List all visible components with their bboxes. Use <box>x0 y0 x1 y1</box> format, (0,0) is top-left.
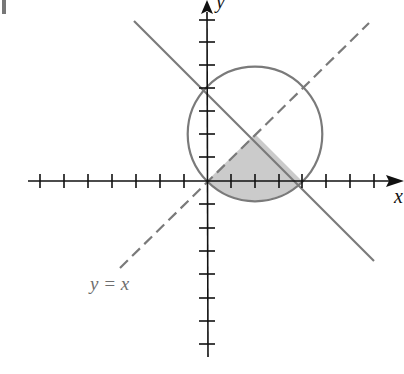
dashed-line-y-equals-x <box>120 23 369 268</box>
edge-artifact <box>2 0 6 14</box>
coordinate-plane-figure: y x y = x <box>0 0 404 374</box>
y-axis-label: y <box>214 0 225 13</box>
x-axis-label: x <box>393 185 403 207</box>
line-x-plus-y-equals-4 <box>134 21 374 261</box>
curve-label-y-equals-x: y = x <box>88 273 130 294</box>
y-axis-arrow-icon <box>201 0 213 14</box>
y-axis <box>207 12 208 357</box>
